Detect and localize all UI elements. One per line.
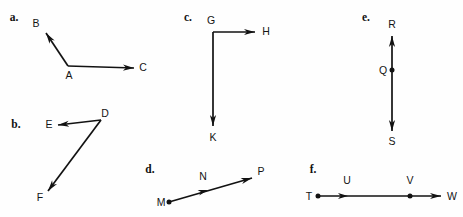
diagram-canvas: a.BACb.EDFc.GHKd.MNPe.RQSf.TUVW <box>0 0 463 217</box>
panel-letter-c: c. <box>184 11 192 23</box>
point-label-W: W <box>447 190 457 202</box>
point-label-Q: Q <box>379 64 387 76</box>
point-label-C: C <box>139 61 147 73</box>
point-label-P: P <box>257 165 264 177</box>
point-label-M: M <box>157 196 166 208</box>
point-label-D: D <box>101 107 109 119</box>
point-label-H: H <box>262 25 270 37</box>
point-label-U: U <box>343 174 351 186</box>
point-dot-T <box>316 194 321 199</box>
panel-letter-b: b. <box>11 118 20 130</box>
point-label-E: E <box>45 118 52 130</box>
point-label-A: A <box>65 69 72 81</box>
point-label-T: T <box>306 190 313 202</box>
panel-letter-f: f. <box>310 163 317 175</box>
point-label-V: V <box>406 174 413 186</box>
panel-letter-d: d. <box>145 163 154 175</box>
point-label-F: F <box>37 191 43 203</box>
point-dot-M <box>167 200 172 205</box>
point-dot-Q <box>390 68 395 73</box>
point-label-G: G <box>207 14 215 26</box>
point-label-S: S <box>388 135 395 147</box>
point-label-R: R <box>388 18 396 30</box>
panel-letter-e: e. <box>362 11 370 23</box>
point-label-B: B <box>32 17 39 29</box>
geometry-figure: a.BACb.EDFc.GHKd.MNPe.RQSf.TUVW <box>0 0 463 217</box>
panel-letter-a: a. <box>10 11 19 23</box>
point-label-N: N <box>199 170 207 182</box>
point-dot-V <box>408 194 413 199</box>
point-label-K: K <box>209 131 216 143</box>
